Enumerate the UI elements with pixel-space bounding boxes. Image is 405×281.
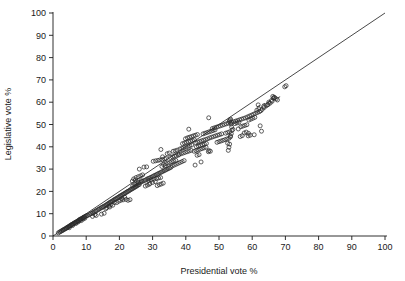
x-tick-label: 10 [81, 242, 91, 252]
y-tick-label: 10 [36, 209, 46, 219]
y-tick-label: 0 [41, 231, 46, 241]
data-point [137, 167, 141, 171]
x-tick-label: 70 [280, 242, 290, 252]
x-tick-label: 40 [181, 242, 191, 252]
x-tick-label: 90 [347, 242, 357, 252]
x-tick-label: 60 [247, 242, 257, 252]
y-tick-label: 40 [36, 142, 46, 152]
y-tick-label: 100 [31, 8, 46, 18]
data-point [236, 127, 240, 131]
x-tick-label: 80 [314, 242, 324, 252]
y-tick-label: 60 [36, 97, 46, 107]
data-point [136, 175, 140, 179]
data-point [258, 124, 262, 128]
y-tick-label: 50 [36, 120, 46, 130]
data-point [193, 163, 197, 167]
x-tick-label: 30 [148, 242, 158, 252]
x-tick-label: 20 [114, 242, 124, 252]
y-tick-label: 70 [36, 75, 46, 85]
data-points-group [56, 84, 288, 235]
data-point [99, 212, 103, 216]
data-point [259, 129, 263, 133]
data-point [252, 133, 256, 137]
y-tick-label: 30 [36, 164, 46, 174]
scatter-chart-figure: 0102030405060708090100010203040506070809… [0, 0, 405, 281]
data-point [207, 116, 211, 120]
x-tick-label: 100 [377, 242, 392, 252]
data-point [187, 127, 191, 131]
data-point [159, 147, 163, 151]
x-tick-label: 0 [50, 242, 55, 252]
y-tick-label: 80 [36, 53, 46, 63]
plot-canvas: 0102030405060708090100010203040506070809… [0, 0, 405, 281]
data-point [145, 165, 149, 169]
data-point [102, 211, 106, 215]
y-tick-label: 20 [36, 187, 46, 197]
x-axis-title: Presidential vote % [180, 266, 257, 276]
y-axis-title: Legislative vote % [3, 88, 13, 161]
x-tick-label: 50 [214, 242, 224, 252]
data-point [199, 160, 203, 164]
y-tick-label: 90 [36, 31, 46, 41]
